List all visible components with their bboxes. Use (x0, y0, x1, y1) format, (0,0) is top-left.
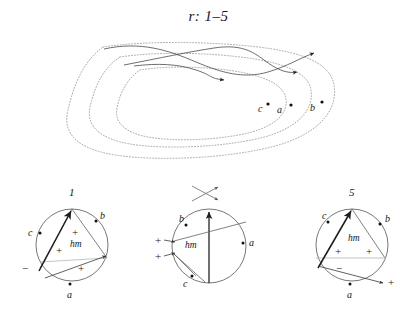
braid-label-a: a (277, 105, 282, 115)
circle-3-sign-inner-lower: − (336, 263, 342, 274)
braid-label-c: c (258, 104, 262, 114)
circle-2-point-label-a: a (249, 238, 254, 248)
circle-1-sign-outer-left: − (22, 263, 28, 274)
circle-2-group (164, 186, 246, 283)
circle-1-point-label-b: b (100, 211, 105, 221)
circle-3-group (316, 209, 388, 286)
braid-label-b: b (310, 103, 315, 113)
circle-2-point-label-c: c (183, 279, 187, 289)
circle-3-sign-outer-lower-right: + (388, 277, 394, 288)
dotted-loop-middle (89, 53, 311, 147)
circle-2-center-label: hm (185, 241, 197, 251)
circle-3-point-label-b: b (385, 214, 390, 224)
circle-3-top-label: 5 (349, 187, 355, 198)
braid-strand-3 (134, 64, 224, 80)
braid-point-c (266, 102, 269, 105)
circle-2-point-label-b: b (179, 214, 184, 224)
circle-1-point-label-c: c (28, 228, 32, 238)
circle-3-center-label: hm (348, 234, 360, 244)
circle-1-sign-inner-left: + (56, 245, 62, 256)
circle-2-sign-outer-left-lower: + (155, 251, 161, 262)
figure-root: r: 1–5 (0, 0, 417, 312)
circle-3-sign-inner-left: + (335, 246, 341, 257)
x-crossing-icon (192, 186, 218, 201)
figure-canvas (0, 0, 417, 312)
circle-1-sign-inner-bottom: + (78, 263, 84, 274)
circle-1-center-label: hm (70, 240, 82, 250)
circle-3-point-label-c: c (322, 211, 326, 221)
dotted-loop-outer (67, 42, 335, 158)
braid-point-a (289, 103, 292, 106)
circle-1-sign-inner-top: + (72, 227, 78, 238)
circle-3-point-label-a: a (347, 290, 352, 300)
braid-point-b (320, 100, 323, 103)
circle-3-sign-inner-right: + (366, 246, 372, 257)
circle-1-point-label-a: a (67, 290, 72, 300)
circle-2-sign-outer-left-upper: + (155, 235, 161, 246)
circle-1-top-label: 1 (69, 187, 75, 198)
